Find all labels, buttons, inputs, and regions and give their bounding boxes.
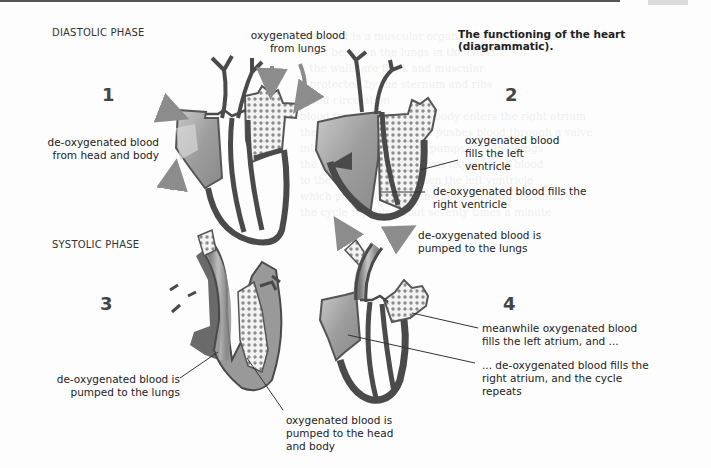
label-oxygenated-from-lungs: oxygenated blood from lungs [242, 29, 354, 55]
diastolic-phase-heading: DIASTOLIC PHASE [52, 27, 145, 38]
label-deoxygenated-right-atrium: ... de-oxygenated blood fills the right … [482, 359, 649, 398]
heart-panel-1 [160, 56, 305, 242]
panel-number-2: 2 [505, 84, 518, 105]
label-deoxygenated-to-lungs-4: de-oxygenated blood is pumped to the lun… [418, 229, 541, 255]
label-oxygenated-to-body: oxygenated blood is pumped to the head a… [286, 414, 393, 453]
label-oxygenated-left-ventricle: oxygenated blood fills the left ventricl… [465, 134, 559, 173]
label-deoxygenated-from-body: de-oxygenated blood from head and body [40, 136, 159, 162]
panel-number-4: 4 [503, 293, 516, 314]
panel-number-1: 1 [102, 84, 115, 105]
label-deoxygenated-right-ventricle: de-oxygenated blood fills the right vent… [433, 185, 586, 211]
label-deoxygenated-to-lungs-3: de-oxygenated blood is pumped to the lun… [40, 373, 180, 399]
label-oxygenated-left-atrium: meanwhile oxygenated blood fills the lef… [482, 322, 637, 348]
panel-number-3: 3 [100, 293, 113, 314]
systolic-phase-heading: SYSTOLIC PHASE [52, 239, 139, 250]
heart-panel-3 [170, 230, 283, 410]
figure-caption: The functioning of the heart (diagrammat… [458, 28, 711, 52]
